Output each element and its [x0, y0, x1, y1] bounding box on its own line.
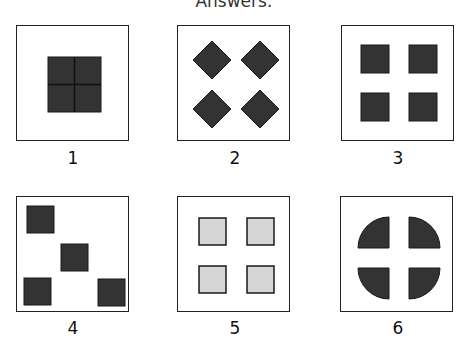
- answers-title: Answers:: [0, 0, 468, 11]
- option-label-2: 2: [205, 149, 265, 167]
- split-circle-figure: [341, 197, 454, 313]
- answer-option-2[interactable]: [177, 25, 290, 141]
- answer-option-6[interactable]: [340, 196, 453, 312]
- answer-option-1[interactable]: [16, 25, 129, 141]
- grid-squares-figure: [342, 26, 455, 142]
- light-squares-figure: [178, 197, 291, 313]
- option-label-1: 1: [43, 149, 103, 167]
- scattered-squares-figure: [17, 197, 130, 313]
- option-label-3: 3: [368, 149, 428, 167]
- option-label-4: 4: [43, 319, 103, 337]
- option-label-6: 6: [368, 319, 428, 337]
- option-label-5: 5: [205, 319, 265, 337]
- answer-option-4[interactable]: [16, 196, 129, 312]
- answer-option-3[interactable]: [341, 25, 454, 141]
- quadrant-square-figure: [17, 26, 130, 142]
- diamonds-figure: [178, 26, 291, 142]
- answer-option-5[interactable]: [177, 196, 290, 312]
